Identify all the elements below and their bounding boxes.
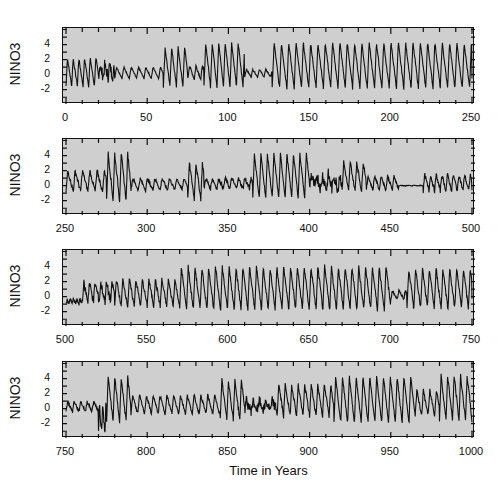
- x-tick-label: 350: [218, 222, 236, 234]
- x-axis-label: Time in Years: [0, 463, 501, 478]
- x-tick-label: 100: [218, 111, 236, 123]
- x-tick-label: 500: [462, 222, 480, 234]
- y-tick-label: -2: [30, 304, 50, 316]
- y-tick-label: -2: [30, 82, 50, 94]
- x-tick-label: 0: [62, 111, 68, 123]
- x-tick-label: 250: [462, 111, 480, 123]
- x-tick-label: 800: [137, 445, 155, 457]
- x-tick-label: 750: [56, 445, 74, 457]
- y-axis-label: NINO3: [7, 43, 23, 86]
- y-tick-label: -2: [30, 193, 50, 205]
- x-tick-label: 700: [381, 333, 399, 345]
- y-tick-label: 4: [30, 371, 50, 383]
- x-tick-label: 150: [299, 111, 317, 123]
- x-tick-label: 1000: [459, 445, 483, 457]
- x-tick-label: 550: [137, 333, 155, 345]
- nino3-line: [63, 362, 475, 438]
- x-tick-label: 900: [299, 445, 317, 457]
- x-tick-label: 850: [218, 445, 236, 457]
- x-tick-label: 450: [381, 222, 399, 234]
- x-tick-label: 200: [381, 111, 399, 123]
- nino3-line: [63, 139, 475, 215]
- y-axis-label: NINO3: [7, 265, 23, 308]
- plot-area: [62, 27, 474, 103]
- y-tick-label: 4: [30, 37, 50, 49]
- y-tick-label: -2: [30, 416, 50, 428]
- x-tick-label: 650: [299, 333, 317, 345]
- x-tick-label: 500: [56, 333, 74, 345]
- x-tick-label: 750: [462, 333, 480, 345]
- plot-area: [62, 249, 474, 325]
- y-axis-label: NINO3: [7, 377, 23, 420]
- y-tick-label: 2: [30, 163, 50, 175]
- y-axis-label: NINO3: [7, 154, 23, 197]
- nino3-line: [63, 250, 475, 326]
- y-tick-label: 0: [30, 401, 50, 413]
- y-tick-label: 2: [30, 274, 50, 286]
- y-tick-label: 2: [30, 386, 50, 398]
- nino3-line: [63, 28, 475, 104]
- plot-area: [62, 138, 474, 214]
- x-tick-label: 950: [381, 445, 399, 457]
- x-tick-label: 600: [218, 333, 236, 345]
- y-tick-label: 2: [30, 52, 50, 64]
- y-tick-label: 0: [30, 67, 50, 79]
- y-tick-label: 0: [30, 289, 50, 301]
- x-tick-label: 400: [299, 222, 317, 234]
- x-tick-label: 50: [140, 111, 152, 123]
- y-tick-label: 0: [30, 178, 50, 190]
- y-tick-label: 4: [30, 148, 50, 160]
- x-tick-label: 250: [56, 222, 74, 234]
- y-tick-label: 4: [30, 259, 50, 271]
- x-tick-label: 300: [137, 222, 155, 234]
- plot-area: [62, 361, 474, 437]
